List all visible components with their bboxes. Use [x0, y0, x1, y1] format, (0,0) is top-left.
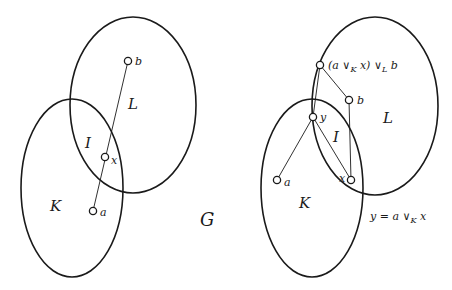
node-x [347, 176, 354, 183]
node-a [273, 176, 280, 183]
node-a-label: a [284, 176, 291, 189]
set-l-label: L [127, 95, 138, 113]
graph-g-label: G [200, 209, 214, 230]
node-x [101, 153, 108, 160]
node-b-label: b [135, 55, 142, 68]
node-y-label: y [319, 111, 327, 124]
node-join-label: (a ∨K x) ∨L b [328, 59, 398, 74]
node-x-label: x [339, 172, 346, 185]
node-a [89, 207, 96, 214]
edge-y-a [277, 117, 313, 180]
set-l-label: L [382, 109, 393, 127]
node-b-label: b [357, 94, 364, 107]
node-a-label: a [100, 206, 107, 219]
node-b [124, 57, 131, 64]
set-k-label: K [298, 194, 311, 212]
edge-b-x [349, 100, 351, 180]
diagram-canvas: b x a L I K G (a ∨K x) ∨L b b y x a L I … [0, 0, 452, 290]
intersection-i-label: I [332, 128, 340, 146]
left-figure: b x a L I K G [21, 17, 214, 277]
node-x-label: x [111, 154, 118, 167]
intersection-i-label: I [84, 134, 92, 152]
node-b [345, 96, 352, 103]
node-join [316, 61, 323, 68]
set-k-ellipse [261, 99, 363, 277]
set-k-label: K [49, 197, 62, 215]
node-y [309, 113, 316, 120]
equation-label: y = a ∨K x [369, 210, 427, 225]
right-figure: (a ∨K x) ∨L b b y x a L I K y = a ∨K x [261, 17, 438, 277]
